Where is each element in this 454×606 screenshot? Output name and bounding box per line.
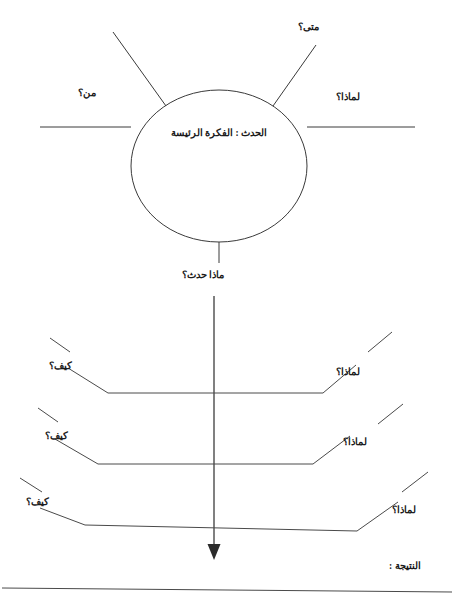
label-how-2: كيف؟: [45, 431, 68, 441]
label-result: النتيجة :: [389, 561, 421, 571]
bracket-line-1: [68, 365, 356, 393]
fishbone-diagram: [0, 0, 454, 606]
worksheet-canvas: الحدث : الفكرة الرئيسة متى؟ من؟ لماذا؟ م…: [0, 0, 454, 606]
label-why-top: لماذا؟: [336, 92, 360, 102]
spoke-upper-left: [113, 32, 166, 106]
label-what-happened: ماذا حدث؟: [182, 270, 224, 280]
tick-left-2: [38, 408, 58, 422]
label-why-2: لماذا؟: [343, 437, 367, 447]
label-how-3: كيف؟: [26, 497, 49, 507]
tick-right-3: [402, 472, 428, 492]
label-why-3: لماذا؟: [392, 505, 416, 515]
label-why-1: لماذا؟: [336, 367, 360, 377]
bracket-line-2: [55, 436, 350, 464]
main-idea-circle: [131, 90, 307, 242]
bracket-line-3: [40, 502, 398, 531]
label-when: متى؟: [298, 22, 319, 32]
tick-right-1: [368, 332, 392, 352]
tick-right-2: [378, 404, 403, 424]
label-how-1: كيف؟: [49, 361, 72, 371]
tick-left-1: [50, 338, 70, 352]
tick-left-3: [20, 478, 42, 492]
main-idea-label: الحدث : الفكرة الرئيسة: [162, 128, 276, 138]
label-who: من؟: [78, 88, 96, 98]
main-arrow-head: [208, 544, 221, 560]
result-underline: [2, 588, 452, 592]
spoke-upper-right: [273, 45, 316, 106]
